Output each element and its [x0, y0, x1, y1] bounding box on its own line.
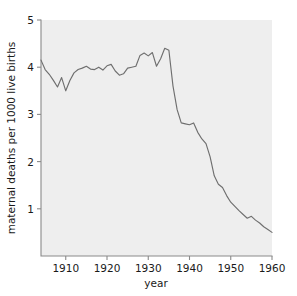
y-axis-ticks — [37, 20, 41, 209]
y-tick-label-5: 5 — [27, 14, 34, 26]
x-tick-label-1920: 1920 — [94, 262, 121, 274]
x-axis-ticks — [66, 256, 272, 260]
x-tick-label-1950: 1950 — [217, 262, 244, 274]
x-tick-label-1930: 1930 — [135, 262, 162, 274]
x-axis-title: year — [144, 277, 168, 289]
y-axis-title: maternal deaths per 1000 live births — [5, 42, 17, 235]
maternal-mortality-line-chart: 12345 191019201930194019501960 year mate… — [0, 0, 297, 296]
chart-figure: 12345 191019201930194019501960 year mate… — [0, 0, 297, 296]
x-tick-label-1910: 1910 — [52, 262, 79, 274]
plot-area-background — [41, 20, 272, 256]
y-axis-tick-labels: 12345 — [27, 14, 34, 215]
x-tick-label-1960: 1960 — [259, 262, 286, 274]
y-tick-label-1: 1 — [27, 203, 34, 215]
y-tick-label-3: 3 — [27, 108, 34, 120]
x-tick-label-1940: 1940 — [176, 262, 203, 274]
y-tick-label-4: 4 — [27, 61, 34, 73]
y-tick-label-2: 2 — [27, 156, 34, 168]
x-axis-tick-labels: 191019201930194019501960 — [52, 262, 285, 274]
